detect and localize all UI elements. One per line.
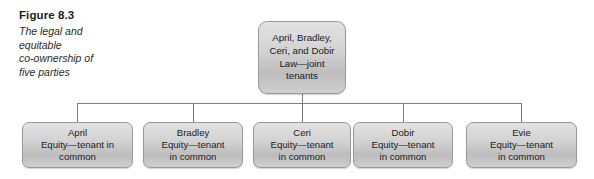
node-ceri-label: Ceri Equity—tenant in common [267,127,338,164]
node-evie-label: Evie Equity—tenant in common [486,127,557,164]
figure-container: Figure 8.3 The legal and equitable co-ow… [0,0,594,179]
node-dobir-label: Dobir Equity—tenant in common [368,127,439,164]
figure-number: Figure 8.3 [19,8,139,22]
node-root-joint-tenants[interactable]: April, Bradley, Ceri, and Dobir Law—join… [258,21,346,94]
node-evie[interactable]: Evie Equity—tenant in common [466,122,577,168]
node-ceri[interactable]: Ceri Equity—tenant in common [253,122,351,168]
figure-caption: Figure 8.3 The legal and equitable co-ow… [19,8,139,79]
node-dobir[interactable]: Dobir Equity—tenant in common [353,122,453,168]
node-april-label: April Equity—tenant in common [37,127,118,164]
node-april[interactable]: April Equity—tenant in common [22,122,133,168]
node-bradley-label: Bradley Equity—tenant in common [158,127,229,164]
node-root-label: April, Bradley, Ceri, and Dobir Law—join… [265,32,338,82]
node-bradley[interactable]: Bradley Equity—tenant in common [143,122,243,168]
figure-description: The legal and equitable co-ownership of … [19,25,139,79]
